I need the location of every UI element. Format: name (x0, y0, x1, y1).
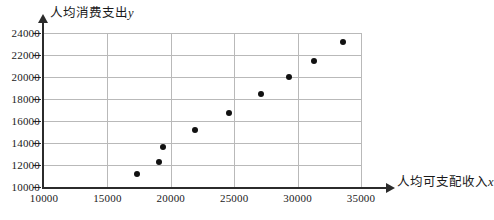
y-axis-tick-label: 12000 (0, 160, 40, 171)
gridline-horizontal (44, 143, 361, 144)
data-point (258, 91, 264, 97)
data-point (160, 144, 166, 150)
plot-top-border (44, 33, 361, 34)
y-axis-tick-label: 22000 (0, 50, 40, 61)
x-axis-title: 人均可支配收入x (397, 176, 494, 189)
gridline-vertical (171, 33, 172, 187)
gridline-horizontal (44, 77, 361, 78)
data-point (340, 39, 346, 45)
y-axis-tick-label: 24000 (0, 28, 40, 39)
gridline-horizontal (44, 121, 361, 122)
y-axis-arrow-icon (38, 14, 48, 23)
x-axis-tick-label: 15000 (77, 193, 137, 204)
x-axis-arrow-icon (386, 183, 395, 193)
x-axis-title-text: 人均可支配收入 (397, 175, 488, 189)
plot-right-border (361, 33, 362, 187)
gridline-horizontal (44, 165, 361, 166)
x-axis-variable: x (488, 175, 494, 189)
data-point (286, 74, 292, 80)
y-axis-tick-label: 20000 (0, 72, 40, 83)
y-axis-tick-label: 14000 (0, 138, 40, 149)
plot-area (44, 33, 361, 187)
data-point (156, 159, 162, 165)
y-axis-tick-label: 18000 (0, 94, 40, 105)
x-axis-line (43, 187, 388, 189)
y-axis-line (42, 22, 44, 189)
data-point (192, 127, 198, 133)
gridline-vertical (107, 33, 108, 187)
gridline-horizontal (44, 99, 361, 100)
x-axis-tick-label: 30000 (268, 193, 328, 204)
data-point (311, 58, 317, 64)
gridline-vertical (234, 33, 235, 187)
x-axis-tick-label: 10000 (14, 193, 74, 204)
y-axis-tick-label: 16000 (0, 116, 40, 127)
y-axis-title-text: 人均消费支出 (50, 6, 128, 20)
y-axis-title: 人均消费支出y (50, 7, 134, 20)
x-axis-tick-label: 20000 (141, 193, 201, 204)
gridline-vertical (298, 33, 299, 187)
data-point (134, 171, 140, 177)
gridline-horizontal (44, 55, 361, 56)
x-axis-tick-label: 35000 (331, 193, 391, 204)
x-axis-tick-label: 25000 (204, 193, 264, 204)
data-point (226, 110, 232, 116)
y-axis-variable: y (128, 6, 134, 20)
